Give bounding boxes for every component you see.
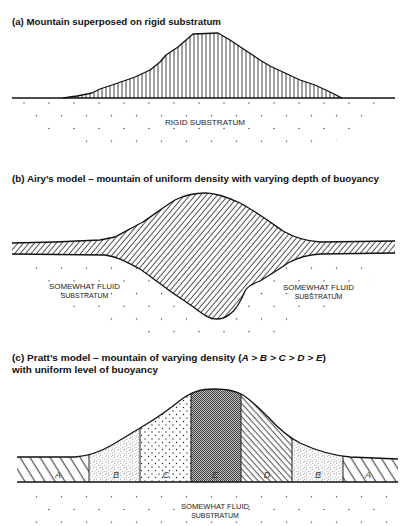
panel-c: (c) Pratt’s model – mountain of varying … <box>0 353 411 526</box>
fluid-substratum-label-left-line1: SOMEWHAT FLUID <box>49 283 120 290</box>
block-label-a-right: A <box>364 470 371 480</box>
block-label-c: C <box>163 470 170 480</box>
fluid-substratum-label-c-line1: SOMEWHAT FLUID <box>181 503 249 510</box>
panel-a-title: (a) Mountain superposed on rigid substra… <box>12 17 221 27</box>
block-label-a-left: A <box>54 470 61 480</box>
rigid-substratum-label: RIGID SUBSTRATUM <box>165 119 245 126</box>
fluid-substratum-label-c-line2: SUBSTRATUM <box>191 512 239 519</box>
block-label-b-left: B <box>113 470 119 480</box>
block-a-right <box>343 380 403 485</box>
block-label-b-right: B <box>315 470 321 480</box>
density-blocks <box>10 380 403 485</box>
panel-c-title-prefix: (c) Pratt’s model – mountain of varying … <box>12 353 242 363</box>
panel-b-title: (b) Airy’s model – mountain of uniform d… <box>12 174 379 184</box>
mountain-a-hatch <box>60 30 350 100</box>
density-order-formula: A > B > C > D > E <box>240 353 323 363</box>
panel-c-title-line2: with uniform level of buoyancy <box>11 365 158 375</box>
panel-c-title-line1: (c) Pratt’s model – mountain of varying … <box>12 353 326 363</box>
fluid-substratum-label-right-line1: SOMEWHAT FLUID <box>283 284 354 291</box>
panel-a: (a) Mountain superposed on rigid substra… <box>0 17 411 155</box>
fluid-substratum-label-left-line2: SUBSTRATUM <box>61 292 109 299</box>
panel-b: (b) Airy’s model – mountain of uniform d… <box>0 174 411 340</box>
block-label-e: E <box>212 470 219 480</box>
isostasy-diagram: (a) Mountain superposed on rigid substra… <box>0 0 411 526</box>
fluid-substratum-label-right-line2: SUBSTRATUM <box>295 293 343 300</box>
panel-c-title-suffix: ) <box>323 353 327 363</box>
block-a-left <box>10 380 89 485</box>
block-label-d: D <box>264 470 271 480</box>
